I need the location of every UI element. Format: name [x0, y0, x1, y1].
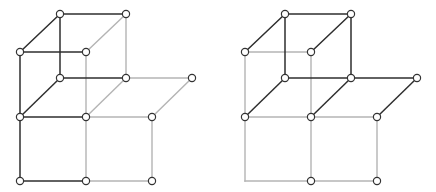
node-F: [122, 74, 129, 81]
node-B: [122, 10, 129, 17]
left-light-edges: [86, 14, 192, 181]
node-I: [82, 113, 89, 120]
light-edge-BD: [86, 14, 126, 52]
node-C: [241, 48, 248, 55]
right-dark-edges: [245, 14, 417, 117]
node-M: [373, 177, 380, 184]
node-D: [82, 48, 89, 55]
node-M: [148, 177, 155, 184]
node-J: [148, 113, 155, 120]
right-graph: [241, 10, 420, 184]
node-E: [281, 74, 288, 81]
node-H: [16, 113, 23, 120]
dark-edge-EH: [20, 78, 60, 117]
node-B: [347, 10, 354, 17]
left-graph: [16, 10, 195, 184]
dark-edge-GJ: [377, 78, 417, 117]
node-G: [188, 74, 195, 81]
node-A: [56, 10, 63, 17]
node-K: [16, 177, 23, 184]
dark-edge-EH: [245, 78, 285, 117]
node-C: [16, 48, 23, 55]
node-E: [56, 74, 63, 81]
node-A: [281, 10, 288, 17]
dark-edge-BD: [311, 14, 351, 52]
node-L: [307, 177, 314, 184]
node-I: [307, 113, 314, 120]
node-G: [413, 74, 420, 81]
node-F: [347, 74, 354, 81]
node-H: [241, 113, 248, 120]
node-L: [82, 177, 89, 184]
dark-edge-FI: [311, 78, 351, 117]
light-edge-FI: [86, 78, 126, 117]
dark-edge-AC: [20, 14, 60, 52]
light-edge-GJ: [152, 78, 192, 117]
left-dark-edges: [20, 14, 126, 181]
node-D: [307, 48, 314, 55]
dark-edge-AC: [245, 14, 285, 52]
node-J: [373, 113, 380, 120]
cube-graph-diagram: [0, 0, 436, 192]
